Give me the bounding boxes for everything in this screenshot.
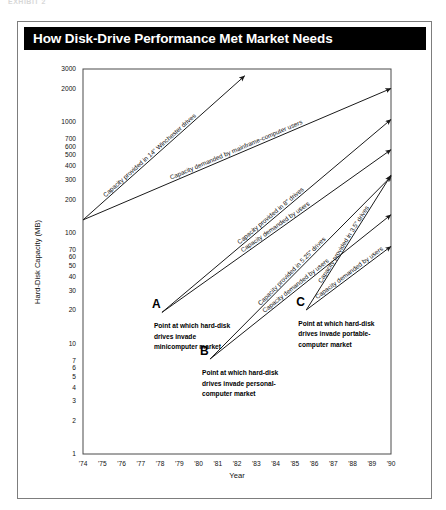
x-tick-label: '78	[156, 460, 165, 467]
series-label: Capacity demanded by mainframe-computer …	[169, 118, 304, 182]
annotation-note-line: drives invade portable-	[298, 330, 370, 338]
y-tick-label: 6	[72, 364, 76, 371]
x-tick-label: '81	[213, 460, 222, 467]
y-tick-label: 100	[65, 229, 76, 236]
y-tick-label: 1	[72, 450, 76, 457]
chart-canvas: 3000200010007006005004003002001007060504…	[0, 0, 446, 510]
y-tick-label: 700	[65, 135, 76, 142]
x-tick-label: '83	[252, 460, 261, 467]
y-tick-label: 50	[69, 262, 77, 269]
y-tick-label: 400	[65, 162, 76, 169]
x-tick-label: '84	[271, 460, 280, 467]
x-tick-label: '79	[175, 460, 184, 467]
annotation-marker-b: B	[200, 344, 209, 358]
figure-container: EXHIBIT 2 How Disk-Drive Performance Met…	[0, 0, 446, 510]
annotation-note-line: drives invade personal-	[202, 380, 276, 388]
series-label: Capacity provided in 14" Winchester driv…	[102, 112, 198, 199]
x-tick-label: '75	[98, 460, 107, 467]
y-tick-label: 60	[69, 253, 77, 260]
y-tick-label: 4	[72, 384, 76, 391]
annotation-note-line: Point at which hard-disk	[154, 322, 231, 329]
series-line	[83, 88, 391, 219]
y-tick-label: 70	[69, 246, 77, 253]
x-tick-label: '74	[79, 460, 88, 467]
x-tick-label: '80	[194, 460, 203, 467]
x-tick-label: '88	[348, 460, 357, 467]
y-tick-label: 600	[65, 143, 76, 150]
y-tick-label: 3	[72, 397, 76, 404]
annotation-marker-c: C	[296, 295, 305, 309]
x-tick-label: '76	[117, 460, 126, 467]
annotation-note-line: minicomputer market	[154, 343, 222, 351]
annotation-note-line: drives invade	[154, 333, 196, 340]
x-tick-label: '82	[233, 460, 242, 467]
y-tick-label: 200	[65, 196, 76, 203]
y-tick-label: 7	[72, 357, 76, 364]
y-tick-label: 20	[69, 306, 77, 313]
annotation-note-line: computer market	[298, 341, 352, 349]
y-tick-label: 1000	[61, 118, 76, 125]
y-tick-label: 500	[65, 151, 76, 158]
y-tick-label: 30	[69, 287, 77, 294]
y-axis-tick-labels: 3000200010007006005004003002001007060504…	[61, 65, 76, 457]
x-tick-label: '87	[329, 460, 338, 467]
x-tick-label: '86	[310, 460, 319, 467]
x-tick-label: '89	[367, 460, 376, 467]
x-tick-label: '85	[290, 460, 299, 467]
y-tick-label: 2000	[61, 85, 76, 92]
series-labels: Capacity provided in 14" Winchester driv…	[102, 112, 385, 315]
x-tick-label: '90	[387, 460, 396, 467]
x-tick-label: '77	[136, 460, 145, 467]
annotation-note-line: Point at which hard-disk	[298, 320, 375, 327]
y-tick-label: 300	[65, 176, 76, 183]
y-tick-label: 5	[72, 373, 76, 380]
y-tick-label: 2	[72, 417, 76, 424]
annotation-note-line: Point at which hard-disk	[202, 369, 279, 376]
series-line	[83, 76, 245, 220]
y-tick-label: 10	[69, 340, 77, 347]
annotation-note-line: computer market	[202, 390, 256, 398]
x-axis-title: Year	[229, 471, 245, 480]
y-tick-label: 3000	[61, 65, 76, 72]
annotation-marker-a: A	[152, 297, 161, 311]
x-axis-tick-labels: '74'75'76'77'78'79'80'81'82'83'84'85'86'…	[79, 460, 396, 467]
series-lines	[83, 76, 391, 359]
y-axis-title: Hard-Disk Capacity (MB)	[33, 220, 42, 304]
y-tick-label: 40	[69, 273, 77, 280]
